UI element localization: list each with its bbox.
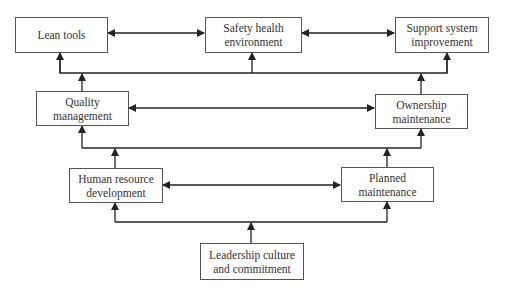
node-safety-health-environment: Safety healthenvironment	[205, 17, 302, 53]
node-lean-tools: Lean tools	[15, 17, 108, 53]
node-label-line1: Quality	[53, 95, 112, 109]
node-label-line1: Safety health	[223, 21, 283, 35]
top-bus-line	[60, 53, 447, 73]
node-label-line2: maintenance	[392, 112, 450, 126]
node-label-line1: Leadership culture	[209, 248, 295, 262]
node-ownership-maintenance: Ownershipmaintenance	[375, 94, 468, 129]
node-label-line2: development	[78, 186, 154, 200]
node-quality-management: Qualitymanagement	[36, 91, 129, 126]
node-label-line1: Support system	[406, 21, 477, 35]
node-label-line1: Planned	[358, 171, 416, 185]
node-support-system-improvement: Support systemimprovement	[395, 17, 489, 53]
node-label-line2: maintenance	[358, 185, 416, 199]
node-label-line2: management	[53, 109, 112, 123]
node-label: Lean tools	[37, 28, 85, 42]
node-planned-maintenance: Plannedmaintenance	[341, 167, 434, 202]
node-label-line2: environment	[223, 35, 283, 49]
node-label-line2: and commitment	[209, 262, 295, 276]
node-leadership-culture-commitment: Leadership cultureand commitment	[200, 243, 304, 280]
node-human-resource-development: Human resourcedevelopment	[69, 168, 163, 203]
node-label-line2: improvement	[406, 35, 477, 49]
node-label-line1: Human resource	[78, 172, 154, 186]
node-label-line1: Ownership	[392, 98, 450, 112]
